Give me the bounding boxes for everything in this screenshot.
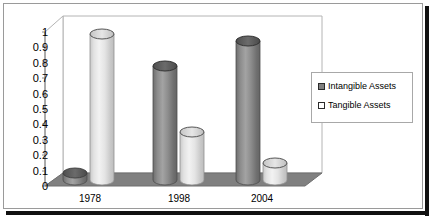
legend-label: Intangible Assets (328, 82, 396, 91)
bar-1998-tangible (180, 127, 204, 185)
y-axis-tick-label: 0 (12, 181, 48, 192)
y-axis-tick-label: 0.3 (12, 135, 48, 146)
chart-legend: Intangible Assets Tangible Assets (311, 72, 413, 123)
legend-swatch-icon (318, 102, 325, 109)
bar-1978-tangible (90, 29, 114, 185)
bar-1978-intangible (63, 168, 87, 185)
y-axis-tick-label: 0.2 (12, 150, 48, 161)
legend-item-intangible-assets[interactable]: Intangible Assets (318, 82, 396, 91)
bar-2004-intangible (236, 36, 260, 185)
y-axis-tick-label: 0.4 (12, 119, 48, 130)
y-axis-tick-label: 1 (12, 27, 48, 38)
y-axis-tick-label: 0.6 (12, 89, 48, 100)
y-axis-tick-label: 0.7 (12, 73, 48, 84)
bar-2004-tangible (263, 158, 287, 185)
x-axis-tick-label-1998: 1998 (154, 194, 204, 204)
x-axis-tick-label-2004: 2004 (237, 194, 287, 204)
chart-screenshot: 1 0.9 0.8 0.7 0.6 0.5 0.4 0.3 0.2 0.1 0 … (0, 0, 433, 222)
legend-item-tangible-assets[interactable]: Tangible Assets (318, 101, 391, 110)
y-axis-labels: 1 0.9 0.8 0.7 0.6 0.5 0.4 0.3 0.2 0.1 0 (12, 0, 48, 222)
legend-swatch-icon (318, 83, 325, 90)
bar-1998-intangible (153, 61, 177, 185)
x-axis-tick-label-1978: 1978 (65, 194, 115, 204)
y-axis-tick-label: 0.9 (12, 42, 48, 53)
y-axis-tick-label: 0.8 (12, 58, 48, 69)
y-axis-tick-label: 0.5 (12, 104, 48, 115)
legend-label: Tangible Assets (328, 101, 391, 110)
y-axis-tick-label: 0.1 (12, 166, 48, 177)
